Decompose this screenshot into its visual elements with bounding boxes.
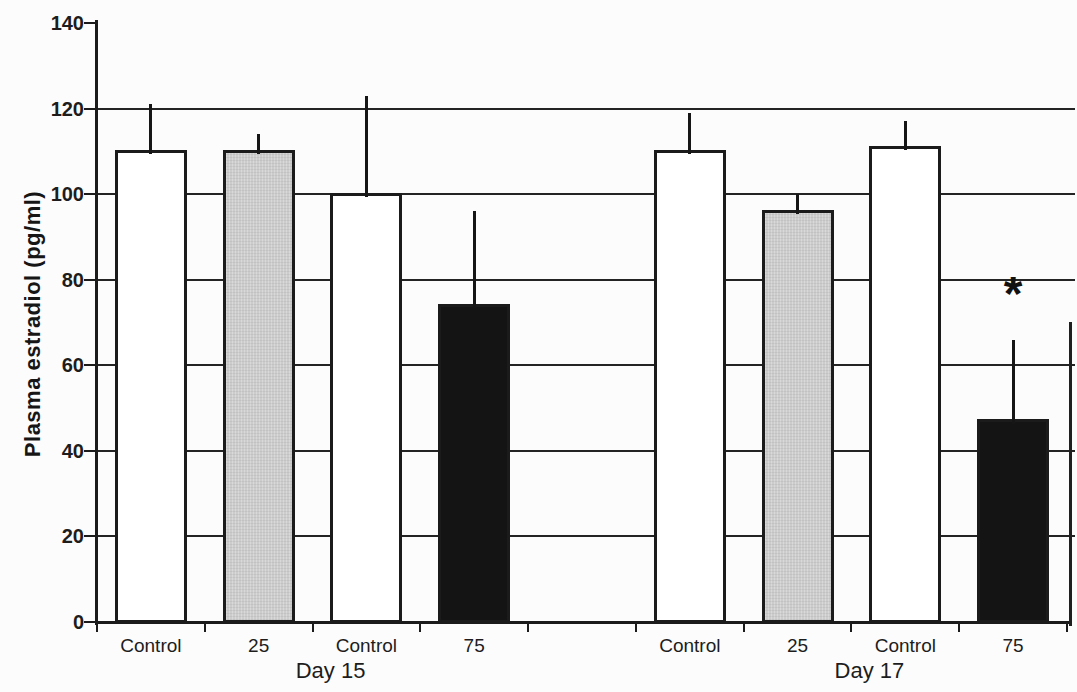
x-axis-tick-5 [635, 622, 637, 632]
x-axis-tick-6 [743, 622, 745, 632]
x-axis-tick-3 [419, 622, 421, 632]
y-axis-tick-40 [84, 450, 96, 452]
x-axis-tick-8 [958, 622, 960, 632]
error-bar-upper [796, 194, 799, 214]
bar-day17-75 [977, 419, 1049, 623]
error-bar-upper [688, 113, 691, 155]
y-tick-label-140: 140 [30, 10, 84, 36]
y-tick-label-20: 20 [30, 523, 84, 549]
x-axis-tick-4 [527, 622, 529, 632]
x-axis-tick-9 [1066, 622, 1068, 632]
bar-day17-control [869, 146, 941, 624]
gridline-120 [97, 108, 1075, 110]
bar-day15-25 [223, 150, 295, 624]
x-category-label: Control [852, 633, 958, 659]
y-tick-label-80: 80 [30, 267, 84, 293]
y-tick-label-40: 40 [30, 438, 84, 464]
plot-right-edge-line [1069, 322, 1072, 626]
y-tick-label-0: 0 [30, 609, 84, 635]
y-tick-label-100: 100 [30, 181, 84, 207]
error-bar-upper [473, 211, 476, 308]
error-bar-upper [904, 121, 907, 150]
y-tick-label-60: 60 [30, 352, 84, 378]
x-group-label-day17: Day 17 [794, 657, 944, 685]
x-category-label: Control [313, 633, 419, 659]
x-axis-tick-2 [312, 622, 314, 632]
y-axis-line [95, 20, 98, 625]
y-axis-tick-80 [84, 279, 96, 281]
x-group-label-day15: Day 15 [256, 657, 406, 685]
y-axis-tick-20 [84, 535, 96, 537]
x-category-label: Control [98, 633, 204, 659]
x-category-label: 75 [960, 633, 1066, 659]
x-category-label: 25 [745, 633, 851, 659]
bar-day15-control [330, 193, 402, 624]
bar-day17-25 [762, 210, 834, 624]
error-bar-upper [365, 96, 368, 197]
bar-chart-figure: Plasma estradiol (pg/ml) 020406080100120… [0, 0, 1077, 692]
error-bar-upper [149, 104, 152, 154]
x-axis-tick-7 [850, 622, 852, 632]
error-bar-upper [257, 134, 260, 154]
bar-day15-75 [438, 304, 510, 624]
y-axis-tick-140 [84, 22, 96, 24]
y-axis-tick-60 [84, 364, 96, 366]
significance-asterisk: * [996, 270, 1030, 318]
x-axis-tick-1 [204, 622, 206, 632]
error-bar-upper [1012, 340, 1015, 424]
x-category-label: Control [637, 633, 743, 659]
bar-day15-control [115, 150, 187, 624]
y-axis-tick-100 [84, 193, 96, 195]
x-category-label: 75 [421, 633, 527, 659]
y-axis-tick-120 [84, 108, 96, 110]
plot-area: 020406080100120140Control25Control75Day … [0, 0, 1077, 692]
x-axis-tick-0 [96, 622, 98, 632]
y-tick-label-120: 120 [30, 96, 84, 122]
x-category-label: 25 [206, 633, 312, 659]
bar-day17-control [654, 150, 726, 624]
